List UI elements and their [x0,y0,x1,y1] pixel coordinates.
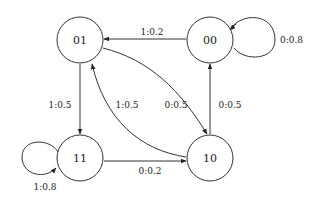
edge-11-self-loop [22,142,58,174]
node-11: 11 [57,135,103,181]
edge-label-10-to-01: 1:0.5 [115,100,138,110]
edge-label-00-self: 0:0.8 [280,35,303,45]
edge-00-self-loop [230,18,275,57]
node-01: 01 [57,17,103,63]
edge-label-00-to-01: 1:0.2 [140,27,163,37]
edge-label-11-to-10: 0:0.2 [138,166,161,176]
state-diagram: 01 00 11 10 1:0.2 0:0.8 1:0.5 0:0.5 1:0.… [0,0,312,200]
node-11-label: 11 [73,152,87,165]
edge-label-01-to-11: 1:0.5 [48,100,71,110]
node-10: 10 [187,135,233,181]
edge-label-01-to-10: 0:0.5 [164,100,187,110]
edge-label-10-to-00: 0:0.5 [218,100,241,110]
edge-00-self-loop-head [230,24,236,30]
edge-01-to-10 [103,48,207,134]
edge-label-11-self: 1:0.8 [33,182,56,192]
node-10-label: 10 [203,152,217,165]
edge-10-to-01 [92,64,186,157]
node-00: 00 [187,17,233,63]
node-01-label: 01 [73,34,87,47]
node-00-label: 00 [203,34,217,47]
